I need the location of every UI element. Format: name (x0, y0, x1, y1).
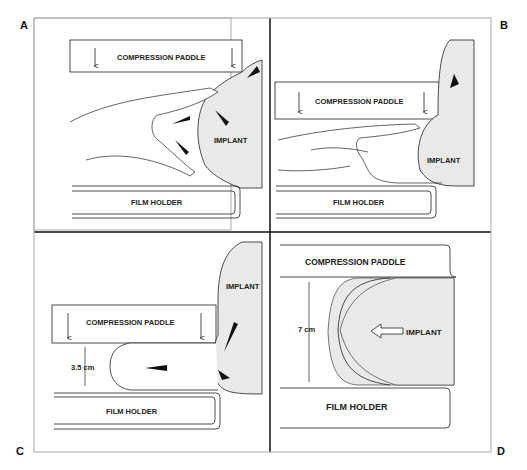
film-holder-label: FILM HOLDER (106, 407, 158, 416)
hand-shape (278, 124, 442, 183)
panel-a: COMPRESSION PADDLE IMPLANT FILM HOLDER A (20, 19, 262, 218)
panel-c: COMPRESSION PADDLE IMPLANT 3.5 cm FILM H… (16, 242, 262, 457)
measurement-label: 3.5 cm (71, 363, 95, 372)
implant-shape (214, 242, 262, 394)
panel-label-b: B (500, 19, 508, 31)
film-holder-label: FILM HOLDER (131, 198, 183, 207)
implant-shape (198, 60, 262, 188)
panel-label-d: D (497, 445, 505, 457)
film-holder-label: FILM HOLDER (333, 198, 385, 207)
arrow-icon (175, 140, 189, 155)
implant-label: IMPLANT (214, 136, 248, 145)
panel-label-c: C (16, 445, 24, 457)
implant-label: IMPLANT (226, 282, 260, 291)
measurement-label: 7 cm (298, 325, 315, 334)
panel-label-a: A (20, 19, 28, 31)
film-holder-label: FILM HOLDER (326, 402, 388, 412)
paddle-label: COMPRESSION PADDLE (315, 97, 404, 106)
implant-label: IMPLANT (427, 156, 461, 165)
hand-shape (70, 88, 218, 176)
paddle-label: COMPRESSION PADDLE (86, 318, 175, 327)
paddle-label: COMPRESSION PADDLE (305, 257, 406, 267)
panel-b: COMPRESSION PADDLE IMPLANT FILM HOLDER B (275, 19, 508, 218)
hand-shape (278, 148, 368, 171)
arrow-icon (172, 116, 190, 124)
diagram: COMPRESSION PADDLE IMPLANT FILM HOLDER A… (0, 0, 527, 470)
paddle-label: COMPRESSION PADDLE (117, 53, 206, 62)
implant-label: IMPLANT (406, 328, 442, 337)
panel-d: COMPRESSION PADDLE IMPLANT 7 cm FILM HOL… (280, 245, 505, 457)
